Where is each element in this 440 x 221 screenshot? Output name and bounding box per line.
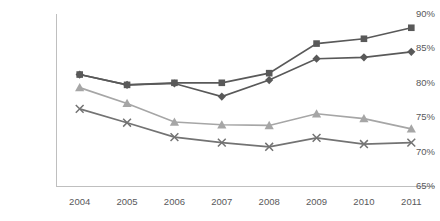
data-point-diamond-2011 (407, 48, 415, 56)
data-point-square-2008 (266, 70, 273, 77)
data-point-square-2011 (408, 24, 415, 31)
data-point-triangle-2004 (75, 83, 84, 91)
data-point-square-2007 (219, 80, 226, 87)
series-triangle (75, 83, 416, 133)
data-point-diamond-2007 (218, 92, 226, 100)
data-point-square-2009 (313, 40, 320, 47)
data-point-diamond-2009 (312, 55, 320, 63)
data-point-diamond-2010 (360, 53, 368, 61)
data-point-diamond-2008 (265, 76, 273, 84)
series-cross (76, 105, 415, 151)
data-point-square-2010 (361, 35, 368, 42)
series-diamond (76, 48, 416, 101)
